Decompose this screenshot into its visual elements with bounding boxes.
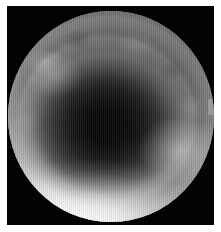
mucosal-wall-base-layer (8, 11, 214, 222)
lumen-funnel-shadow-layer (8, 11, 214, 222)
field-of-view-edge-notch (208, 99, 214, 115)
rim-vignette-layer (8, 11, 214, 222)
tissue-texture-layer (8, 11, 214, 222)
mucosal-folds-layer (8, 11, 214, 222)
endoscopy-image-viewer (0, 0, 221, 232)
central-lumen-layer (8, 11, 214, 222)
specular-highlight-layer (8, 11, 214, 222)
image-frame (7, 6, 214, 225)
scanline-artifact-layer (8, 11, 214, 222)
secondary-highlight-layer (8, 11, 214, 222)
endoscope-field-of-view (8, 11, 214, 222)
